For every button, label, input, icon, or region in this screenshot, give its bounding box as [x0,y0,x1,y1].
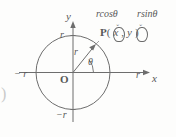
x-axis-label: x [152,73,157,84]
point-y-variable: y [124,26,135,38]
y-axis-label: y [66,11,71,22]
y-tick-label-negative-r: −r [56,110,67,120]
y-coordinate-expression: rsinθ [137,9,157,19]
y-axis [70,21,75,122]
annotation-mark-y-icon: ⌄ [138,21,143,27]
point-leader-line [96,41,99,44]
point-x-variable: x [110,26,121,38]
point-name: P [100,26,107,38]
x-coordinate-expression: rcosθ [96,9,118,19]
radius-label: r [74,47,78,57]
x-tick-label-positive-r: r [136,70,140,80]
page-edge-artifact: ) [1,86,6,102]
point-p-label: P(x,y) [100,27,139,38]
figure-canvas: y x O r −r − r r r θ rcosθ rsinθ P(x,y) … [0,0,176,137]
x-tick-label-negative-r: − r [14,69,27,79]
y-tick-label-positive-r: r [60,30,64,40]
annotation-mark-x-icon: ⌄ [115,21,120,27]
angle-theta-label: θ [88,57,93,67]
x-axis [19,70,150,75]
origin-label: O [60,74,69,85]
point-close-paren: ) [135,26,139,38]
